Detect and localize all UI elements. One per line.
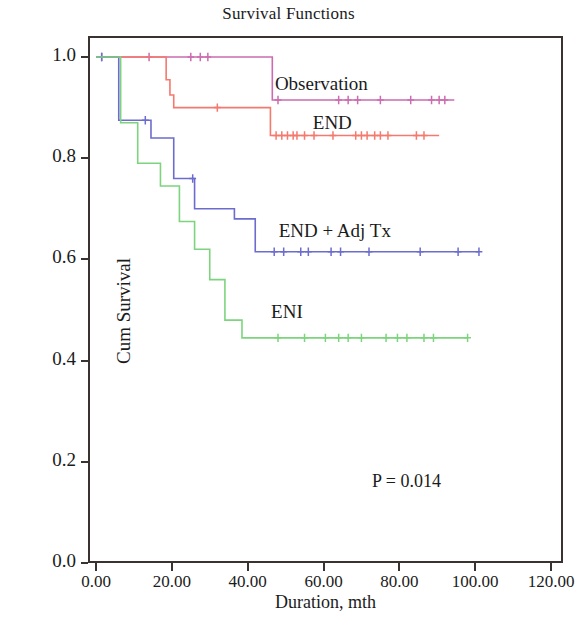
censoring-mark [335, 334, 342, 342]
censoring-mark [417, 248, 424, 256]
censoring-mark [271, 248, 278, 256]
censoring-mark [441, 96, 448, 104]
censoring-mark [297, 248, 304, 256]
curves-group [96, 53, 482, 342]
censoring-mark [294, 131, 301, 139]
censoring-mark [385, 131, 392, 139]
censoring-mark [354, 96, 361, 104]
censoring-mark [383, 334, 390, 342]
censoring-mark [337, 248, 344, 256]
x-axis-title: Duration, mth [88, 592, 563, 613]
p-value-annotation: P = 0.014 [372, 471, 441, 492]
censoring-mark [377, 96, 384, 104]
chart-title: Survival Functions [0, 4, 577, 24]
censoring-mark [421, 334, 428, 342]
censoring-mark [345, 334, 352, 342]
censoring-mark [421, 131, 428, 139]
y-tick-mark [81, 157, 88, 159]
curve-label-end-adj-tx: END + Adj Tx [279, 220, 391, 242]
survival-functions-figure: Survival Functions Cum Survival 0.00.20.… [0, 0, 577, 622]
censoring-mark [345, 96, 352, 104]
x-tick-label: 120.00 [506, 572, 577, 592]
curve-label-end: END [313, 112, 352, 134]
censoring-mark [407, 96, 414, 104]
y-tick-label: 0.4 [14, 348, 76, 370]
censoring-mark [364, 131, 371, 139]
y-tick-label: 0.6 [14, 246, 76, 268]
censoring-mark [394, 334, 401, 342]
censoring-mark [187, 53, 194, 61]
censoring-mark [464, 334, 471, 342]
y-tick-label: 0.0 [14, 550, 76, 572]
x-tick-mark [323, 563, 325, 571]
y-tick-mark [81, 562, 88, 564]
censoring-mark [358, 334, 365, 342]
x-tick-mark [474, 563, 476, 571]
censoring-mark [455, 248, 462, 256]
y-tick-label: 0.8 [14, 145, 76, 167]
censoring-mark [430, 334, 437, 342]
x-tick-mark [550, 563, 552, 571]
censoring-mark [413, 131, 420, 139]
censoring-mark [275, 96, 282, 104]
censoring-mark [197, 53, 204, 61]
y-tick-mark [81, 258, 88, 260]
curve-label-observation: Observation [275, 73, 368, 95]
censoring-mark [404, 334, 411, 342]
censoring-mark [322, 334, 329, 342]
y-tick-label: 1.0 [14, 44, 76, 66]
x-tick-mark [171, 563, 173, 571]
censoring-mark [301, 131, 308, 139]
curve-line [96, 57, 468, 338]
y-tick-mark [81, 360, 88, 362]
censoring-mark [142, 116, 149, 124]
censoring-mark [335, 96, 342, 104]
survival-curve-end [96, 57, 439, 140]
censoring-mark [377, 131, 384, 139]
censoring-mark [328, 248, 335, 256]
censoring-mark [476, 248, 483, 256]
censoring-mark [428, 96, 435, 104]
censoring-mark [305, 248, 312, 256]
curve-line [96, 57, 439, 135]
censoring-mark [214, 103, 221, 111]
censoring-mark [204, 53, 211, 61]
y-tick-label: 0.2 [14, 449, 76, 471]
x-tick-mark [247, 563, 249, 571]
y-tick-mark [81, 461, 88, 463]
x-tick-mark [398, 563, 400, 571]
x-tick-mark [95, 563, 97, 571]
censoring-mark [366, 248, 373, 256]
censoring-mark [301, 334, 308, 342]
y-tick-mark [81, 56, 88, 58]
censoring-mark [280, 248, 287, 256]
censoring-mark [275, 334, 282, 342]
curve-label-eni: ENI [271, 301, 303, 323]
